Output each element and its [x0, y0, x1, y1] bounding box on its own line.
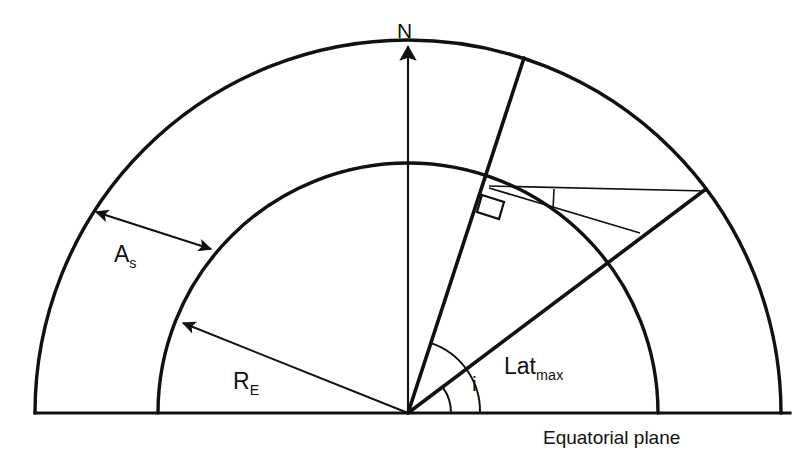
- latitude-symbol: Lat: [504, 353, 536, 379]
- max-latitude-label: Latmax: [504, 355, 564, 382]
- construction-tick-mark: [553, 189, 554, 210]
- equatorial-plane-label: Equatorial plane: [543, 428, 680, 447]
- latitude-subscript: max: [536, 367, 564, 383]
- diagram-canvas: [0, 0, 806, 464]
- radius-symbol: R: [233, 368, 250, 394]
- altitude-subscript: s: [129, 255, 136, 271]
- tangent-construction-line-lower: [489, 188, 640, 233]
- earth-radius-arrow: [183, 323, 408, 413]
- orbit-geometry-diagram: N As RE i Latmax Equatorial plane: [0, 0, 806, 464]
- right-angle-marker: [477, 195, 504, 219]
- earth-radius-label: RE: [233, 370, 259, 397]
- radius-subscript: E: [250, 382, 260, 398]
- inclination-label: i: [472, 373, 477, 394]
- altitude-symbol: A: [114, 241, 129, 267]
- north-pole-label: N: [397, 20, 412, 41]
- inclination-angle-arc: [443, 387, 451, 413]
- satellite-altitude-label: As: [114, 243, 137, 270]
